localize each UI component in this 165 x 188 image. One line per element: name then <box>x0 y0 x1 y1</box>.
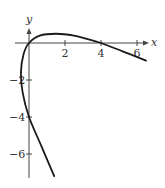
y-axis-arrow-icon <box>27 28 32 34</box>
x-tick-label-4: 4 <box>98 47 105 60</box>
x-tick-label-2: 2 <box>62 47 69 60</box>
y-axis-label: y <box>25 13 33 26</box>
y-tick-label-m2: −2 <box>9 74 25 87</box>
y-tick-label-m4: −4 <box>9 111 25 124</box>
curve-line <box>21 34 146 176</box>
y-tick-label-m6: −6 <box>9 148 25 161</box>
x-axis-arrow-icon <box>143 41 149 46</box>
x-axis-label: x <box>151 36 158 49</box>
parametric-curve-plot: 2 4 6 −2 −4 −6 x y <box>0 0 165 188</box>
